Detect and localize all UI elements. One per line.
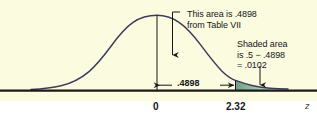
table-area-annotation: This area is .4898 from Table VII [187, 9, 257, 30]
normal-curve-figure: This area is .4898 from Table VII Shaded… [0, 0, 317, 123]
span-area-label: .4898 [177, 78, 200, 88]
axis-variable-label: z [305, 101, 310, 111]
shaded-area-annotation: Shaded area is .5 − .4898 = .0102 [237, 39, 287, 71]
shaded-area-line-1: Shaded area [237, 39, 287, 50]
table-area-line-2: from Table VII [187, 20, 257, 31]
shaded-area-line-3: = .0102 [237, 60, 287, 71]
axis-tick-label-zero: 0 [153, 101, 159, 112]
shaded-area-line-2: is .5 − .4898 [237, 50, 287, 61]
table-note-leader [173, 12, 181, 51]
table-area-line-1: This area is .4898 [187, 9, 257, 20]
axis-tick-label-critical: 2.32 [226, 101, 245, 112]
